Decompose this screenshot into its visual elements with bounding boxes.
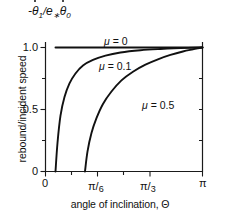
x-tick-label-pi-over-6: π/6 [88,177,104,193]
curve-label-mu-0-5: μ = 0.5 [142,100,174,111]
pi-numerator-3: π [140,180,148,192]
denominator-6: 6 [99,184,104,194]
y-axis-top-label: -θ1/e∗θ0 [28,4,71,20]
x-tick-label-0: 0 [42,178,48,189]
theta-0-subscript: 0 [66,11,70,20]
theta-1-symbol: θ [32,4,39,18]
equals-01: = [105,60,117,72]
equals-0: = [110,35,122,47]
equals-05: = [148,99,160,111]
e-symbol: e [46,4,53,18]
x-tick-label-pi-over-3: π/3 [140,177,156,193]
mu-value-0: 0 [122,35,128,47]
chart-figure: -θ1/e∗θ0 1.0 0.5 0 0 π/6 π/3 π rebound/i… [0,0,240,221]
pi-over-6-fraction: π/6 [88,181,104,192]
overdot-0 [62,0,64,2]
x-tick-label-pi: π [199,178,207,189]
theta-0-symbol: θ [60,4,67,18]
curve-label-mu-0: μ = 0 [104,36,128,47]
pi-over-3-fraction: π/3 [140,181,156,192]
x-axis-label: angle of inclination, Θ [0,198,240,210]
mu-value-01: 0.1 [117,60,132,72]
denominator-3: 3 [151,184,156,194]
theta-dot-1: θ [32,4,39,18]
y-axis-label: rebound/incident speed [16,39,28,179]
theta-dot-0: θ [60,4,67,18]
mu-value-05: 0.5 [160,99,175,111]
e-star-subscript: ∗ [53,11,60,20]
pi-numerator-6: π [88,180,96,192]
curve-label-mu-0-1: μ = 0.1 [99,61,131,72]
